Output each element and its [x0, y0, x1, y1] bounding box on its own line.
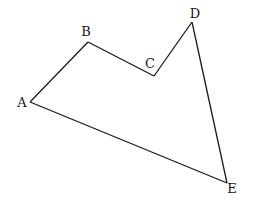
vertex-label-d: D	[190, 6, 200, 21]
edge-cd	[154, 22, 192, 76]
edge-ab	[30, 42, 88, 102]
vertex-labels: A B C D E	[16, 6, 236, 196]
vertex-label-a: A	[16, 95, 27, 110]
polygon-edges	[30, 22, 227, 183]
edge-de	[192, 22, 227, 183]
vertex-label-c: C	[145, 56, 155, 71]
edge-ea	[30, 102, 227, 183]
vertex-label-b: B	[81, 24, 91, 39]
vertex-label-e: E	[227, 181, 237, 196]
pentagon-diagram: A B C D E	[0, 0, 259, 202]
